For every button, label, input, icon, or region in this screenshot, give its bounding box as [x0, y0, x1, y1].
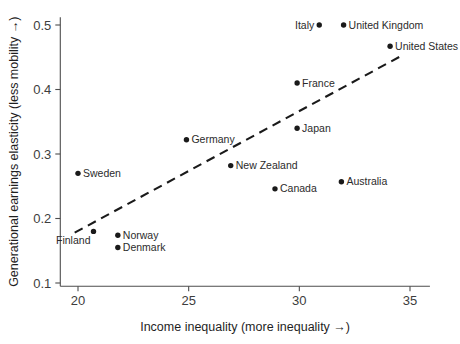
trend-line-dashed	[75, 56, 401, 233]
y-tick-label: 0.2	[33, 211, 51, 226]
data-point-italy	[317, 22, 322, 27]
x-tick-label: 25	[181, 293, 195, 308]
data-point-new-zealand	[228, 163, 233, 168]
data-label-canada: Canada	[280, 182, 317, 194]
y-tick-label: 0.1	[33, 276, 51, 291]
data-label-denmark: Denmark	[123, 241, 166, 253]
x-tick-label: 30	[292, 293, 306, 308]
y-tick-label: 0.5	[33, 18, 51, 33]
data-label-new-zealand: New Zealand	[236, 159, 298, 171]
data-label-germany: Germany	[191, 133, 235, 145]
data-label-australia: Australia	[346, 175, 387, 187]
data-label-united-kingdom: United Kingdom	[349, 19, 424, 31]
y-axis-title: Generational earnings elasticity (less m…	[7, 17, 21, 287]
scatter-chart-figure: 0.10.20.30.40.520253035 SwedenFinlandNor…	[0, 0, 460, 344]
data-label-japan: Japan	[302, 122, 331, 134]
data-label-france: France	[302, 77, 335, 89]
data-point-australia	[339, 179, 344, 184]
x-tick-label: 20	[71, 293, 85, 308]
data-points-group: SwedenFinlandNorwayDenmarkGermanyNew Zea…	[56, 19, 458, 254]
chart-canvas: 0.10.20.30.40.520253035 SwedenFinlandNor…	[0, 0, 460, 344]
data-point-denmark	[115, 245, 120, 250]
chart-axes: 0.10.20.30.40.520253035	[33, 17, 430, 308]
data-label-italy: Italy	[295, 19, 315, 31]
data-label-norway: Norway	[123, 229, 159, 241]
data-point-canada	[272, 186, 277, 191]
data-label-united-states: United States	[395, 40, 458, 52]
data-point-united-kingdom	[341, 22, 346, 27]
data-point-united-states	[387, 44, 392, 49]
data-point-japan	[294, 126, 299, 131]
trend-line	[75, 56, 401, 233]
data-point-finland	[91, 229, 96, 234]
data-point-germany	[184, 137, 189, 142]
x-axis-title: Income inequality (more inequality →)	[140, 320, 350, 334]
data-label-sweden: Sweden	[83, 167, 121, 179]
data-point-sweden	[75, 171, 80, 176]
data-point-norway	[115, 233, 120, 238]
data-point-france	[294, 80, 299, 85]
x-tick-label: 35	[403, 293, 417, 308]
data-label-finland: Finland	[56, 234, 91, 246]
y-tick-label: 0.4	[33, 82, 51, 97]
y-tick-label: 0.3	[33, 147, 51, 162]
